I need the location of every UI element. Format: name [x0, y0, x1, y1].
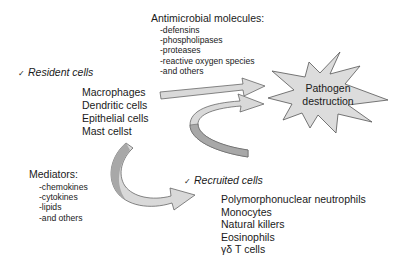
mediators-list: -chemokines -cytokines -lipids -and othe… [39, 182, 88, 223]
target-line-1: Pathogen [288, 82, 368, 95]
mediator-item: -lipids [39, 202, 88, 212]
resident-cell: Dendritic cells [82, 99, 149, 112]
recruited-cells-heading: ✓Recruited cells [184, 174, 263, 186]
check-icon: ✓ [184, 177, 191, 186]
arrow-resident-to-destruction [160, 78, 265, 99]
recruited-cells-list: Polymorphonuclear neutrophils Monocytes … [221, 193, 366, 256]
recruited-cell: Natural killers [221, 218, 366, 231]
recruited-cells-title: Recruited cells [194, 174, 263, 186]
arrow-recruited-shadow [190, 124, 248, 157]
recruited-cell: Monocytes [221, 206, 366, 219]
mediator-item: -chemokines [39, 182, 88, 192]
recruited-cell: Eosinophils [221, 231, 366, 244]
resident-cell: Macrophages [82, 86, 149, 99]
antimicrobial-item: -and others [160, 66, 255, 76]
antimicrobial-list: -defensins -phospholipases -proteases -r… [160, 25, 255, 76]
recruited-cell: Polymorphonuclear neutrophils [221, 193, 366, 206]
resident-cells-heading: ✓Resident cells [18, 66, 93, 78]
mediator-item: -and others [39, 213, 88, 223]
mediator-item: -cytokines [39, 192, 88, 202]
check-icon: ✓ [18, 69, 25, 78]
antimicrobial-title: Antimicrobial molecules: [151, 12, 264, 24]
pathogen-destruction-label: Pathogen destruction [288, 82, 368, 107]
recruited-cell: γδ T cells [221, 243, 366, 256]
antimicrobial-item: -defensins [160, 25, 255, 35]
antimicrobial-item: -phospholipases [160, 35, 255, 45]
resident-cells-title: Resident cells [28, 66, 93, 78]
antimicrobial-item: -reactive oxygen species [160, 56, 255, 66]
resident-cell: Mast cellst [82, 125, 149, 138]
resident-cell: Epithelial cells [82, 112, 149, 125]
antimicrobial-item: -proteases [160, 45, 255, 55]
mediators-title: Mediators: [29, 168, 78, 180]
resident-cells-list: Macrophages Dendritic cells Epithelial c… [82, 86, 149, 138]
target-line-2: destruction [288, 95, 368, 108]
